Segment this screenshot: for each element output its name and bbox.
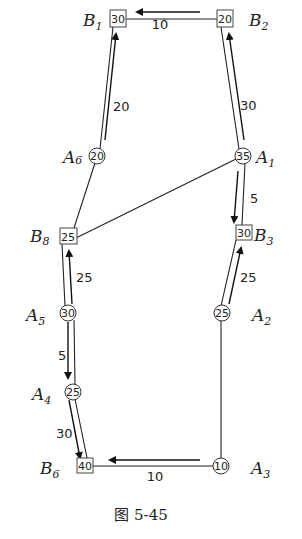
node-label: B1 xyxy=(82,10,103,33)
node-a2: 25 A2 xyxy=(214,305,271,328)
flow-arrow-a1-b3 xyxy=(234,171,238,222)
node-value: 30 xyxy=(61,307,75,320)
node-label: B3 xyxy=(253,225,274,248)
node-label: B6 xyxy=(39,458,60,481)
node-b2: 20 B2 xyxy=(217,10,269,33)
edge-a4-b6 xyxy=(75,399,87,458)
flow-label-a1-b3: 5 xyxy=(250,191,258,206)
transport-network-diagram: 10 20 30 5 25 25 5 30 10 30 B1 20 B2 20 … xyxy=(0,0,302,539)
node-value: 25 xyxy=(215,307,229,320)
node-value: 20 xyxy=(218,13,232,26)
node-a6: 20 A6 xyxy=(61,147,105,167)
node-value: 30 xyxy=(237,227,251,240)
node-label: A1 xyxy=(254,147,275,170)
edge-b8-a5 xyxy=(62,244,65,306)
flow-arrow-a5-b8 xyxy=(69,251,72,304)
node-value: 25 xyxy=(61,231,75,244)
node-value: 30 xyxy=(111,13,125,26)
node-value: 20 xyxy=(90,150,104,163)
flow-arrow-a1-b2 xyxy=(229,34,244,140)
node-a3: 10 A3 xyxy=(213,458,270,481)
figure-caption: 图 5-45 xyxy=(114,506,167,524)
node-label: B8 xyxy=(29,226,50,248)
flow-label-b2-b1: 10 xyxy=(152,17,169,32)
edge-b3-a2 xyxy=(221,240,236,306)
network-edges xyxy=(62,19,245,466)
edge-a6-b8 xyxy=(74,163,95,228)
node-b3: 30 B3 xyxy=(236,225,274,248)
node-label: A3 xyxy=(249,458,270,481)
flow-label-a2-b3: 25 xyxy=(240,270,257,285)
flow-label-a1-b2: 30 xyxy=(240,98,257,113)
node-value: 25 xyxy=(66,386,80,399)
node-b1: 30 B1 xyxy=(82,10,126,33)
node-b8: 25 B8 xyxy=(29,226,77,248)
flow-label-a4-b6: 30 xyxy=(56,426,73,441)
node-label: A2 xyxy=(250,305,271,328)
flow-label-a5-a4: 5 xyxy=(58,348,66,363)
edge-a5-a4 xyxy=(74,320,75,385)
flow-label-a5-b8: 25 xyxy=(76,270,93,285)
flow-labels: 10 20 30 5 25 25 5 30 10 xyxy=(56,17,258,484)
flow-label-a6-b1: 20 xyxy=(113,99,130,114)
node-value: 10 xyxy=(214,460,228,473)
node-label: A4 xyxy=(30,384,51,407)
node-label: A6 xyxy=(61,147,82,167)
node-value: 40 xyxy=(78,460,92,473)
node-label: B2 xyxy=(248,10,269,33)
node-value: 35 xyxy=(236,150,250,163)
edge-a1-b8 xyxy=(76,159,236,238)
node-label: A5 xyxy=(24,305,45,328)
flow-arrows xyxy=(68,12,244,460)
node-a4: 25 A4 xyxy=(30,384,81,407)
flow-label-a3-b6: 10 xyxy=(147,469,164,484)
node-a1: 35 A1 xyxy=(235,147,275,170)
node-b6: 40 B6 xyxy=(39,458,93,481)
edge-a1-b3 xyxy=(242,163,245,225)
